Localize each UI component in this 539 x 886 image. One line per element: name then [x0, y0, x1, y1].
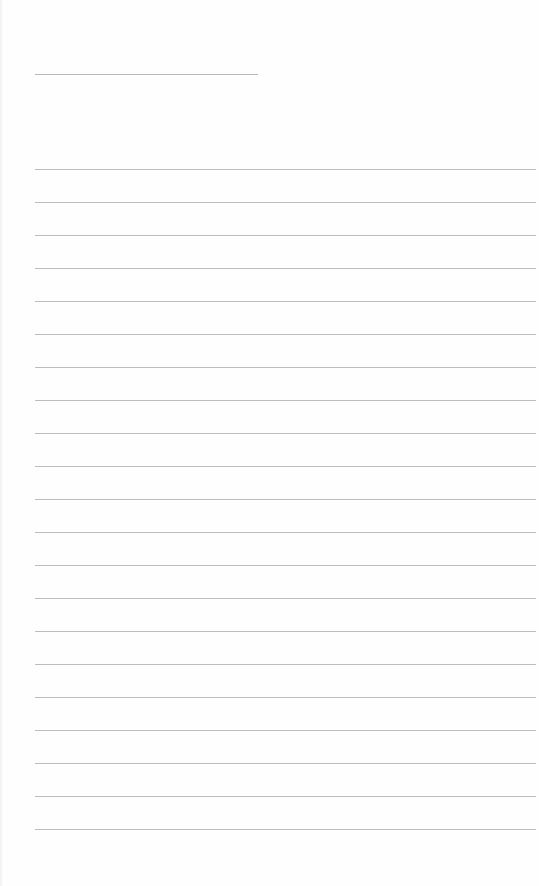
page-edge-shadow: [0, 0, 3, 886]
ruled-line: [35, 664, 536, 665]
ruled-line: [35, 301, 536, 302]
ruled-line: [35, 367, 536, 368]
lined-paper-page: [0, 0, 539, 886]
ruled-line: [35, 730, 536, 731]
ruled-line: [35, 169, 536, 170]
title-line: [35, 74, 258, 75]
ruled-line: [35, 763, 536, 764]
ruled-line: [35, 532, 536, 533]
ruled-line: [35, 400, 536, 401]
ruled-line: [35, 565, 536, 566]
ruled-line: [35, 697, 536, 698]
ruled-line: [35, 796, 536, 797]
ruled-line: [35, 499, 536, 500]
ruled-line: [35, 631, 536, 632]
ruled-line: [35, 829, 536, 830]
ruled-line: [35, 598, 536, 599]
ruled-line: [35, 433, 536, 434]
ruled-line: [35, 268, 536, 269]
ruled-line: [35, 235, 536, 236]
ruled-line: [35, 466, 536, 467]
ruled-line: [35, 334, 536, 335]
ruled-line: [35, 202, 536, 203]
